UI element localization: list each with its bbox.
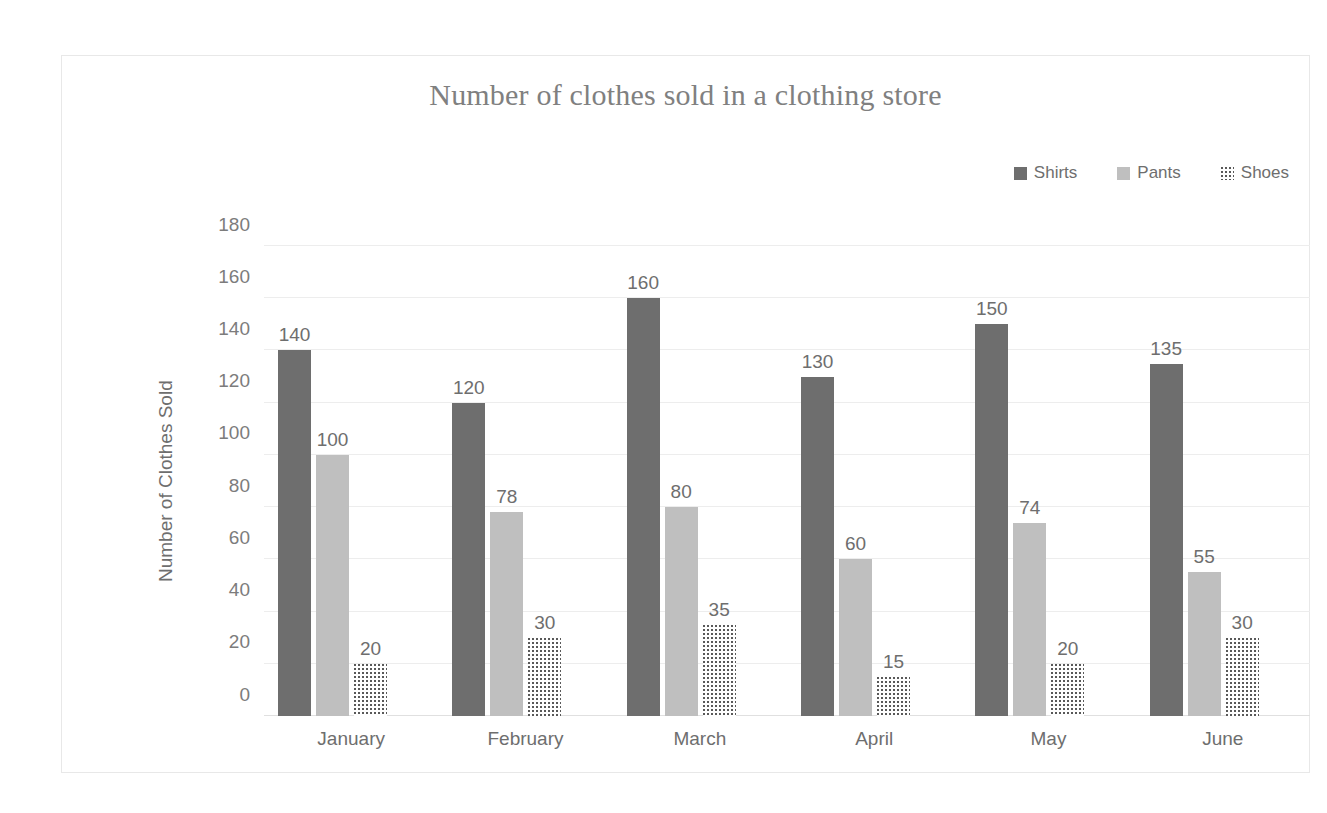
bar-value-label: 35: [709, 599, 730, 621]
bar-value-label: 15: [883, 651, 904, 673]
bar-value-label: 20: [1057, 638, 1078, 660]
x-axis-label: January: [264, 728, 438, 750]
y-axis-tick-label: 0: [239, 684, 250, 706]
x-axis-labels: JanuaryFebruaryMarchAprilMayJune: [264, 728, 1310, 750]
x-axis-label: June: [1136, 728, 1310, 750]
bar-rect[interactable]: [528, 638, 561, 716]
bar-shoes[interactable]: 20: [1051, 246, 1084, 716]
bar-group: 1507420: [961, 246, 1135, 716]
bar-rect[interactable]: [354, 664, 387, 716]
bar-shirts[interactable]: 130: [801, 246, 834, 716]
bar-rect[interactable]: [316, 455, 349, 716]
bar-value-label: 135: [1150, 338, 1182, 360]
bar-rect[interactable]: [839, 559, 872, 716]
chart-legend: Shirts Pants Shoes: [1014, 163, 1289, 183]
bar-rect[interactable]: [490, 512, 523, 716]
bar-group-bars: 1306015: [787, 246, 961, 716]
x-axis-label: March: [613, 728, 787, 750]
bar-value-label: 120: [453, 377, 485, 399]
bar-shoes[interactable]: 20: [354, 246, 387, 716]
bar-value-label: 160: [627, 272, 659, 294]
bar-rect[interactable]: [1013, 523, 1046, 716]
bar-shoes[interactable]: 35: [703, 246, 736, 716]
bar-group: 14010020: [264, 246, 438, 716]
chart-container: Number of clothes sold in a clothing sto…: [61, 55, 1310, 773]
bar-rect[interactable]: [1226, 638, 1259, 716]
legend-label-shoes: Shoes: [1241, 163, 1289, 183]
legend-item-shirts[interactable]: Shirts: [1014, 163, 1077, 183]
legend-item-pants[interactable]: Pants: [1117, 163, 1180, 183]
bar-shirts[interactable]: 140: [278, 246, 311, 716]
bar-shirts[interactable]: 150: [975, 246, 1008, 716]
bar-pants[interactable]: 60: [839, 246, 872, 716]
bar-rect[interactable]: [278, 350, 311, 716]
bar-value-label: 60: [845, 533, 866, 555]
bar-group-bars: 1507420: [961, 246, 1135, 716]
bar-value-label: 30: [1232, 612, 1253, 634]
x-axis-label: April: [787, 728, 961, 750]
chart-title: Number of clothes sold in a clothing sto…: [62, 78, 1309, 112]
legend-label-shirts: Shirts: [1034, 163, 1077, 183]
bar-group-bars: 1207830: [438, 246, 612, 716]
y-axis-tick-label: 140: [218, 318, 250, 340]
bar-rect[interactable]: [452, 403, 485, 716]
bar-shirts[interactable]: 160: [627, 246, 660, 716]
bar-value-label: 80: [671, 481, 692, 503]
bar-pants[interactable]: 55: [1188, 246, 1221, 716]
y-axis-tick-label: 40: [229, 579, 250, 601]
bar-group-bars: 1608035: [613, 246, 787, 716]
bar-rect[interactable]: [1188, 572, 1221, 716]
bar-pants[interactable]: 100: [316, 246, 349, 716]
bar-rect[interactable]: [1051, 664, 1084, 716]
bar-shoes[interactable]: 15: [877, 246, 910, 716]
bar-value-label: 100: [317, 429, 349, 451]
y-axis-tick-label: 180: [218, 214, 250, 236]
bar-value-label: 130: [802, 351, 834, 373]
y-axis-tick-label: 100: [218, 422, 250, 444]
bar-rect[interactable]: [703, 625, 736, 716]
bar-shoes[interactable]: 30: [528, 246, 561, 716]
bar-rect[interactable]: [665, 507, 698, 716]
y-axis-title: Number of Clothes Sold: [155, 246, 177, 716]
y-axis-tick-label: 120: [218, 370, 250, 392]
bar-rect[interactable]: [801, 377, 834, 716]
bar-group-bars: 14010020: [264, 246, 438, 716]
bar-pants[interactable]: 78: [490, 246, 523, 716]
y-axis-tick-label: 20: [229, 631, 250, 653]
bar-group-bars: 1355530: [1136, 246, 1310, 716]
y-axis-tick-label: 80: [229, 475, 250, 497]
bar-value-label: 140: [279, 324, 311, 346]
x-axis-label: February: [438, 728, 612, 750]
bar-rect[interactable]: [627, 298, 660, 716]
bar-group: 1207830: [438, 246, 612, 716]
bar-group: 1306015: [787, 246, 961, 716]
bar-pants[interactable]: 80: [665, 246, 698, 716]
bar-group: 1355530: [1136, 246, 1310, 716]
legend-item-shoes[interactable]: Shoes: [1221, 163, 1289, 183]
bar-rect[interactable]: [877, 677, 910, 716]
bar-value-label: 78: [496, 486, 517, 508]
bar-pants[interactable]: 74: [1013, 246, 1046, 716]
bar-value-label: 150: [976, 298, 1008, 320]
plot-area: 020406080100120140160180 140100201207830…: [264, 246, 1310, 716]
bar-groups: 1401002012078301608035130601515074201355…: [264, 246, 1310, 716]
y-axis-tick-label: 60: [229, 527, 250, 549]
legend-swatch-shoes-icon: [1221, 167, 1234, 180]
legend-swatch-shirts-icon: [1014, 167, 1027, 180]
bar-value-label: 20: [360, 638, 381, 660]
x-axis-label: May: [961, 728, 1135, 750]
bar-value-label: 55: [1194, 546, 1215, 568]
bar-shirts[interactable]: 135: [1150, 246, 1183, 716]
bar-shoes[interactable]: 30: [1226, 246, 1259, 716]
bar-group: 1608035: [613, 246, 787, 716]
bar-value-label: 30: [534, 612, 555, 634]
legend-swatch-pants-icon: [1117, 167, 1130, 180]
bar-value-label: 74: [1019, 497, 1040, 519]
legend-label-pants: Pants: [1137, 163, 1180, 183]
y-axis-tick-label: 160: [218, 266, 250, 288]
bar-shirts[interactable]: 120: [452, 246, 485, 716]
bar-rect[interactable]: [975, 324, 1008, 716]
bar-rect[interactable]: [1150, 364, 1183, 717]
